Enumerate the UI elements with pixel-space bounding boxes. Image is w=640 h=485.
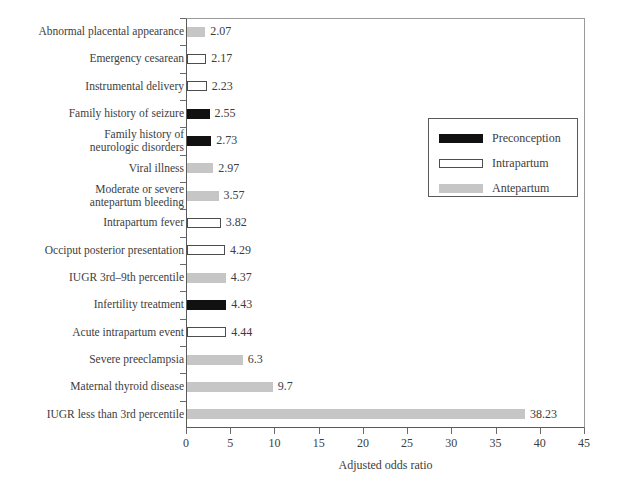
category-label: Infertility treatment	[0, 298, 184, 311]
bar-value-label: 3.57	[224, 188, 245, 203]
legend-swatch	[439, 134, 483, 143]
bar	[187, 163, 213, 173]
x-axis-tick-label: 0	[183, 436, 189, 451]
bar	[187, 382, 273, 392]
category-label: Occiput posterior presentation	[0, 244, 184, 257]
bar-row: Instrumental delivery2.23	[0, 73, 640, 100]
bar-value-label: 4.44	[231, 325, 252, 340]
y-axis-tick	[180, 127, 186, 128]
x-axis-tick	[186, 428, 187, 434]
y-axis-tick	[180, 155, 186, 156]
bar-value-label: 6.3	[248, 352, 263, 367]
bar-row: IUGR less than 3rd percentile38.23	[0, 401, 640, 428]
bar-with-value: 4.43	[187, 291, 252, 318]
bar	[187, 191, 219, 201]
bar	[187, 136, 211, 146]
category-label: Family history of seizure	[0, 107, 184, 120]
x-axis-tick	[363, 428, 364, 434]
bar-with-value: 6.3	[187, 346, 263, 373]
bar-with-value: 2.55	[187, 100, 236, 127]
category-label: Moderate or severe antepartum bleeding	[0, 183, 184, 209]
legend-swatch	[439, 159, 483, 168]
legend-label: Antepartum	[492, 181, 549, 196]
y-axis-tick	[180, 45, 186, 46]
bar	[187, 81, 207, 91]
bar-with-value: 9.7	[187, 373, 293, 400]
bar-value-label: 38.23	[530, 407, 557, 422]
bar-value-label: 2.73	[216, 133, 237, 148]
y-axis-tick	[180, 182, 186, 183]
bar-value-label: 2.55	[215, 106, 236, 121]
x-axis-tick	[230, 428, 231, 434]
x-axis-tick-label: 20	[357, 436, 369, 451]
category-label: Abnormal placental appearance	[0, 25, 184, 38]
x-axis-tick-label: 40	[534, 436, 546, 451]
y-axis-tick	[180, 319, 186, 320]
bar-value-label: 2.97	[218, 161, 239, 176]
y-axis-tick	[180, 209, 186, 210]
bar	[187, 245, 225, 255]
bar	[187, 300, 226, 310]
bar-row: Maternal thyroid disease9.7	[0, 373, 640, 400]
bar-value-label: 9.7	[278, 379, 293, 394]
x-axis-tick-label: 35	[490, 436, 502, 451]
bar-value-label: 4.37	[231, 270, 252, 285]
bar	[187, 273, 226, 283]
y-axis-tick	[180, 373, 186, 374]
x-axis-tick-label: 10	[268, 436, 280, 451]
bar-row: Abnormal placental appearance2.07	[0, 18, 640, 45]
bar-row: IUGR 3rd–9th percentile4.37	[0, 264, 640, 291]
y-axis-tick	[180, 291, 186, 292]
bar-row: Severe preeclampsia6.3	[0, 346, 640, 373]
x-axis-tick-label: 25	[401, 436, 413, 451]
bar-with-value: 3.82	[187, 209, 247, 236]
x-axis-tick	[540, 428, 541, 434]
legend-label: Preconception	[492, 131, 561, 146]
category-label: Instrumental delivery	[0, 80, 184, 93]
x-axis: Adjusted odds ratio 051015202530354045	[186, 428, 585, 478]
x-axis-tick	[496, 428, 497, 434]
category-label: Intrapartum fever	[0, 216, 184, 229]
x-axis-tick	[584, 428, 585, 434]
category-label: Maternal thyroid disease	[0, 380, 184, 393]
bar-value-label: 2.07	[210, 24, 231, 39]
bar-value-label: 2.17	[211, 51, 232, 66]
adjusted-odds-ratio-chart: Abnormal placental appearance2.07Emergen…	[0, 0, 640, 485]
bar-with-value: 38.23	[187, 401, 557, 428]
x-axis-tick	[319, 428, 320, 434]
category-label: Viral illness	[0, 162, 184, 175]
bar-row: Intrapartum fever3.82	[0, 209, 640, 236]
legend-item: Antepartum	[439, 181, 549, 195]
y-axis-tick	[180, 237, 186, 238]
bar-with-value: 2.23	[187, 73, 233, 100]
bar-with-value: 4.29	[187, 237, 251, 264]
bar	[187, 27, 205, 37]
bar-row: Occiput posterior presentation4.29	[0, 237, 640, 264]
bar-with-value: 3.57	[187, 182, 245, 209]
bar-with-value: 2.17	[187, 45, 232, 72]
category-label: IUGR less than 3rd percentile	[0, 408, 184, 421]
category-label: IUGR 3rd–9th percentile	[0, 271, 184, 284]
chart-legend: PreconceptionIntrapartumAntepartum	[428, 118, 578, 197]
x-axis-tick-label: 30	[445, 436, 457, 451]
category-label: Emergency cesarean	[0, 52, 184, 65]
bar	[187, 409, 525, 419]
bar	[187, 109, 210, 119]
bar-value-label: 4.43	[231, 297, 252, 312]
bar-value-label: 2.23	[212, 79, 233, 94]
category-label: Family history of neurologic disorders	[0, 128, 184, 154]
category-label: Acute intrapartum event	[0, 326, 184, 339]
y-axis-tick	[180, 401, 186, 402]
legend-swatch	[439, 184, 483, 193]
bar-with-value: 2.07	[187, 18, 231, 45]
x-axis-tick-label: 5	[227, 436, 233, 451]
bar-with-value: 4.37	[187, 264, 252, 291]
y-axis-tick	[180, 73, 186, 74]
bar-rows-container: Abnormal placental appearance2.07Emergen…	[0, 18, 640, 428]
bar-row: Emergency cesarean2.17	[0, 45, 640, 72]
legend-item: Preconception	[439, 131, 561, 145]
x-axis-tick	[451, 428, 452, 434]
bar-with-value: 2.97	[187, 155, 239, 182]
bar-with-value: 2.73	[187, 127, 237, 154]
y-axis-tick	[180, 18, 186, 19]
